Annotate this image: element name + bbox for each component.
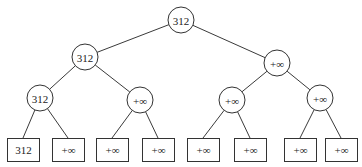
node-label: +∞ — [225, 95, 239, 107]
tree-edge — [23, 110, 35, 138]
tree-edge — [95, 65, 130, 92]
tree-leaf-leaf1: 312 — [8, 139, 40, 162]
tree-node-root: 312 — [168, 7, 194, 33]
tree-edge — [112, 110, 132, 138]
leaf-label: +∞ — [243, 144, 257, 156]
node-label: 312 — [173, 15, 190, 27]
node-label: 312 — [77, 52, 94, 64]
tree-node-l3a: 312 — [27, 85, 53, 111]
tree-edge — [203, 110, 224, 138]
tree-node-l2b: +∞ — [264, 50, 290, 76]
tournament-tree-diagram: 312312+∞312+∞+∞+∞ 312+∞+∞+∞+∞+∞+∞+∞ — [0, 0, 362, 167]
tree-node-l2a: 312 — [72, 44, 98, 70]
tree-leaf-leaf6: +∞ — [235, 139, 267, 162]
node-label: 312 — [32, 93, 49, 105]
tree-edge — [193, 25, 265, 57]
leaf-label: +∞ — [151, 144, 165, 156]
node-label: +∞ — [270, 58, 284, 70]
tree-edge — [326, 110, 341, 138]
leaf-label: +∞ — [196, 144, 210, 156]
tree-edge — [50, 66, 76, 89]
tree-edge — [47, 109, 68, 138]
tree-internal-nodes: 312312+∞312+∞+∞+∞ — [27, 7, 333, 113]
tree-node-l3b: +∞ — [127, 87, 153, 113]
tree-edge — [287, 71, 310, 90]
leaf-label: 312 — [15, 144, 32, 156]
tree-edges — [23, 25, 341, 138]
tree-edge — [242, 71, 267, 91]
node-label: +∞ — [133, 95, 147, 107]
tree-edge — [238, 112, 250, 138]
leaf-label: +∞ — [293, 144, 307, 156]
tree-edge — [146, 112, 158, 138]
tree-edge — [97, 25, 169, 53]
tree-leaf-leaf4: +∞ — [143, 139, 175, 162]
node-label: +∞ — [313, 93, 327, 105]
tree-node-l3c: +∞ — [219, 87, 245, 113]
tree-leaf-leaf7: +∞ — [285, 139, 317, 162]
tree-leaf-leaf5: +∞ — [188, 139, 220, 162]
tree-leaf-leaf8: +∞ — [326, 139, 358, 162]
tree-leaf-nodes: 312+∞+∞+∞+∞+∞+∞+∞ — [8, 139, 358, 162]
leaf-label: +∞ — [61, 144, 75, 156]
tree-edge — [300, 110, 314, 138]
tree-leaf-leaf2: +∞ — [53, 139, 85, 162]
tree-leaf-leaf3: +∞ — [97, 139, 129, 162]
leaf-label: +∞ — [105, 144, 119, 156]
tree-node-l3d: +∞ — [307, 85, 333, 111]
leaf-label: +∞ — [334, 144, 348, 156]
